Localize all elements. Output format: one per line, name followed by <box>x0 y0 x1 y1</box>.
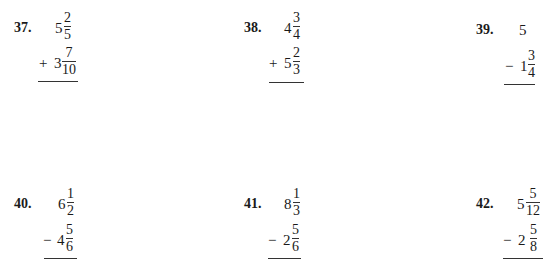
bottom-denominator: 4 <box>528 65 535 80</box>
bottom-numerator: 5 <box>66 223 73 238</box>
answer-line <box>38 81 78 82</box>
bottom-denominator: 10 <box>62 62 76 77</box>
answer-line <box>503 258 543 259</box>
bottom-fraction: 7 10 <box>62 46 76 77</box>
top-numerator: 1 <box>67 187 74 202</box>
problem-number: 39. <box>476 23 494 37</box>
top-fraction: 2 5 <box>64 11 71 42</box>
top-fraction: 1 3 <box>293 187 300 218</box>
top-fraction: 3 4 <box>293 11 300 42</box>
bottom-numerator: 2 <box>293 46 300 61</box>
top-denominator: 4 <box>293 27 300 42</box>
bottom-fraction: 3 4 <box>528 49 535 80</box>
bottom-whole: 4 <box>57 233 65 248</box>
top-numerator: 2 <box>64 11 71 26</box>
answer-line <box>268 258 301 259</box>
top-numerator: 3 <box>293 11 300 26</box>
bottom-whole: 3 <box>54 56 62 71</box>
bottom-numerator: 5 <box>530 223 537 238</box>
plus-operator: + <box>39 56 47 71</box>
bottom-numerator: 3 <box>528 49 535 64</box>
bottom-whole: 2 <box>518 233 526 248</box>
problem-42: 42. 5 5 12 − 2 5 8 <box>410 170 552 268</box>
answer-line <box>504 84 535 85</box>
top-numerator: 1 <box>293 187 300 202</box>
top-denominator: 5 <box>64 27 71 42</box>
minus-operator: − <box>268 233 276 248</box>
problem-40: 40. 6 1 2 − 4 5 6 <box>0 170 140 268</box>
top-whole: 5 <box>519 23 527 38</box>
bottom-whole: 2 <box>283 233 291 248</box>
minus-operator: − <box>503 233 511 248</box>
problem-number: 38. <box>244 21 262 35</box>
problem-37: 37. 5 2 5 + 3 7 10 <box>0 0 140 90</box>
bottom-fraction: 5 6 <box>292 223 299 254</box>
top-fraction: 5 12 <box>526 187 540 218</box>
bottom-whole: 5 <box>284 56 292 71</box>
top-whole: 4 <box>284 21 292 36</box>
problem-39: 39. 5 − 1 3 4 <box>410 0 552 90</box>
problem-number: 42. <box>476 197 494 211</box>
minus-operator: − <box>43 233 51 248</box>
bottom-numerator: 5 <box>292 223 299 238</box>
bottom-denominator: 6 <box>292 239 299 254</box>
problem-number: 40. <box>14 197 32 211</box>
answer-line <box>44 258 77 259</box>
top-denominator: 3 <box>293 203 300 218</box>
bottom-fraction: 5 6 <box>66 223 73 254</box>
top-denominator: 12 <box>526 203 540 218</box>
top-whole: 8 <box>284 197 292 212</box>
minus-operator: − <box>505 59 513 74</box>
problem-41: 41. 8 1 3 − 2 5 6 <box>190 170 330 268</box>
bottom-denominator: 3 <box>293 62 300 77</box>
top-whole: 6 <box>58 197 66 212</box>
bottom-denominator: 6 <box>66 239 73 254</box>
problem-number: 41. <box>244 197 262 211</box>
bottom-fraction: 2 3 <box>293 46 300 77</box>
top-whole: 5 <box>55 21 63 36</box>
problem-number: 37. <box>14 21 32 35</box>
top-numerator: 5 <box>530 187 537 202</box>
problem-38: 38. 4 3 4 + 5 2 3 <box>190 0 330 90</box>
plus-operator: + <box>269 56 277 71</box>
answer-line <box>269 82 304 83</box>
top-whole: 5 <box>517 197 525 212</box>
top-denominator: 2 <box>67 203 74 218</box>
bottom-whole: 1 <box>520 59 528 74</box>
top-fraction: 1 2 <box>67 187 74 218</box>
bottom-denominator: 8 <box>530 239 537 254</box>
bottom-numerator: 7 <box>66 46 73 61</box>
bottom-fraction: 5 8 <box>530 223 537 254</box>
